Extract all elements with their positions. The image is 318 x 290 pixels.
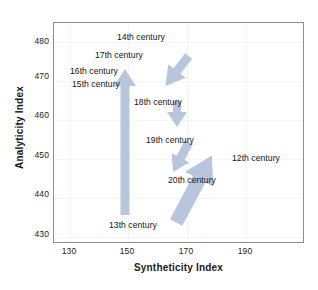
annotation-12th-century: 12th century xyxy=(232,153,280,163)
y-tick-label-460: 460 xyxy=(28,110,49,120)
y-axis-title: Analyticity Index xyxy=(14,63,25,193)
annotation-13th-century: 13th century xyxy=(109,220,157,230)
y-tick-label-430: 430 xyxy=(28,229,49,239)
x-tick-label-190: 190 xyxy=(238,246,252,256)
arrow-14th-to-18th-icon xyxy=(157,52,197,90)
chart-figure: 480 470 460 450 440 430 130 150 170 190 … xyxy=(0,0,318,290)
x-tick-label-130: 130 xyxy=(62,246,76,256)
annotation-20th-century: 20th century xyxy=(168,175,216,185)
x-tick-label-150: 150 xyxy=(120,246,134,256)
annotation-19th-century: 19th century xyxy=(146,135,194,145)
annotation-18th-century: 18th century xyxy=(134,97,182,107)
y-tick-label-480: 480 xyxy=(28,36,49,46)
y-tick-label-440: 440 xyxy=(28,189,49,199)
plot-area: 14th century 17th century 16th century 1… xyxy=(53,22,304,243)
annotation-17th-century: 17th century xyxy=(95,50,143,60)
y-tick-label-470: 470 xyxy=(28,71,49,81)
gridline-x-130 xyxy=(70,23,71,242)
annotation-15th-century: 15th century xyxy=(72,79,120,89)
y-tick-label-450: 450 xyxy=(28,150,49,160)
x-axis-title: Syntheticity Index xyxy=(53,262,304,273)
annotation-14th-century: 14th century xyxy=(117,32,165,42)
gridline-y-430 xyxy=(54,237,303,238)
annotation-16th-century: 16th century xyxy=(70,66,118,76)
x-tick-label-170: 170 xyxy=(179,246,193,256)
gridline-y-480 xyxy=(54,42,303,43)
